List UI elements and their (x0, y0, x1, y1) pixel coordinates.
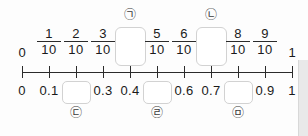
numerator: 3 (90, 27, 116, 41)
answer-box-c[interactable] (62, 81, 91, 104)
top-fraction-8-10: 8 10 (225, 27, 251, 56)
bottom-label-0-4: 0.4 (115, 84, 145, 97)
bottom-label-0-9: 0.9 (250, 84, 280, 97)
marker-label-a: ㉠ (120, 9, 140, 21)
axis-tick-9 (265, 66, 266, 78)
number-line-figure: 0 1 10 2 10 3 10 ㉠ 5 10 6 10 ㉡ 8 10 9 10 (0, 0, 308, 136)
page-edge-artifact (298, 60, 308, 136)
axis-tick-5 (157, 66, 158, 78)
denominator: 10 (171, 43, 197, 56)
axis-tick-3 (103, 66, 104, 78)
answer-box-b[interactable] (196, 27, 227, 66)
numerator: 9 (252, 27, 278, 41)
bottom-label-0-7: 0.7 (196, 84, 226, 97)
marker-label-d: ㉣ (147, 107, 167, 119)
answer-box-e[interactable] (224, 81, 253, 104)
top-fraction-5-10: 5 10 (144, 27, 170, 56)
axis-tick-6 (184, 66, 185, 78)
marker-label-c: ㉢ (66, 107, 86, 119)
axis-tick-4 (130, 66, 131, 78)
marker-label-e: ㉤ (228, 107, 248, 119)
top-fraction-3-10: 3 10 (90, 27, 116, 56)
numerator: 5 (144, 27, 170, 41)
bottom-label-0-6: 0.6 (169, 84, 199, 97)
numerator: 6 (171, 27, 197, 41)
numerator: 8 (225, 27, 251, 41)
denominator: 10 (90, 43, 116, 56)
denominator: 10 (36, 43, 62, 56)
axis-tick-10 (292, 66, 293, 78)
denominator: 10 (252, 43, 278, 56)
top-fraction-6-10: 6 10 (171, 27, 197, 56)
denominator: 10 (63, 43, 89, 56)
denominator: 10 (144, 43, 170, 56)
numerator: 2 (63, 27, 89, 41)
axis-tick-7 (211, 66, 212, 78)
top-label-1: 1 (281, 46, 303, 59)
numerator: 1 (36, 27, 62, 41)
top-fraction-1-10: 1 10 (36, 27, 62, 56)
bottom-label-0-3: 0.3 (88, 84, 118, 97)
answer-box-a[interactable] (115, 27, 146, 66)
marker-label-b: ㉡ (201, 9, 221, 21)
axis-tick-1 (49, 66, 50, 78)
top-fraction-9-10: 9 10 (252, 27, 278, 56)
answer-box-d[interactable] (143, 81, 172, 104)
top-label-0: 0 (11, 46, 33, 59)
bottom-label-0: 0 (7, 84, 37, 97)
top-fraction-2-10: 2 10 (63, 27, 89, 56)
axis-tick-8 (238, 66, 239, 78)
axis-tick-0 (22, 66, 23, 78)
bottom-label-0-1: 0.1 (34, 84, 64, 97)
axis-tick-2 (76, 66, 77, 78)
denominator: 10 (225, 43, 251, 56)
